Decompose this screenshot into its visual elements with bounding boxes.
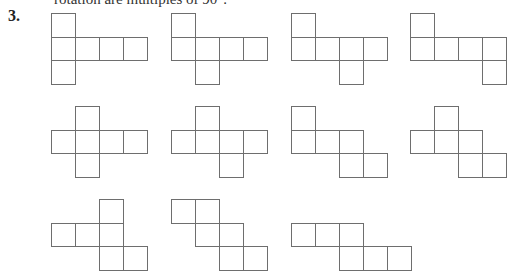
net-square bbox=[75, 106, 100, 131]
net-square bbox=[410, 13, 435, 38]
net-square bbox=[291, 223, 316, 248]
net-square bbox=[243, 246, 268, 271]
net-square bbox=[339, 130, 364, 155]
net-square bbox=[123, 246, 148, 271]
net-square bbox=[195, 199, 220, 224]
net-square bbox=[482, 37, 507, 62]
net-square bbox=[51, 223, 76, 248]
net-square bbox=[99, 246, 124, 271]
net-square bbox=[51, 130, 76, 155]
net-square bbox=[387, 246, 412, 271]
net-square bbox=[171, 37, 196, 62]
net-square bbox=[75, 130, 100, 155]
net-square bbox=[363, 246, 388, 271]
net-square bbox=[195, 106, 220, 131]
net-square bbox=[458, 37, 483, 62]
net-square bbox=[291, 130, 316, 155]
net-square bbox=[219, 246, 244, 271]
net-square bbox=[339, 37, 364, 62]
net-square bbox=[219, 223, 244, 248]
net-square bbox=[51, 13, 76, 38]
net-square bbox=[75, 153, 100, 178]
question-number: 3. bbox=[8, 7, 20, 25]
net-square bbox=[99, 37, 124, 62]
net-square bbox=[219, 37, 244, 62]
net-square bbox=[339, 153, 364, 178]
net-square bbox=[195, 223, 220, 248]
net-square bbox=[123, 130, 148, 155]
net-square bbox=[243, 130, 268, 155]
net-square bbox=[482, 153, 507, 178]
net-square bbox=[315, 37, 340, 62]
net-square bbox=[51, 60, 76, 85]
net-square bbox=[434, 106, 459, 131]
net-square bbox=[458, 130, 483, 155]
net-square bbox=[171, 13, 196, 38]
net-square bbox=[315, 130, 340, 155]
net-square bbox=[123, 37, 148, 62]
net-square bbox=[434, 37, 459, 62]
net-square bbox=[99, 130, 124, 155]
net-square bbox=[410, 37, 435, 62]
net-square bbox=[171, 199, 196, 224]
net-square bbox=[339, 246, 364, 271]
net-square bbox=[75, 223, 100, 248]
net-square bbox=[482, 60, 507, 85]
net-square bbox=[291, 13, 316, 38]
net-square bbox=[99, 223, 124, 248]
net-square bbox=[339, 60, 364, 85]
net-square bbox=[99, 199, 124, 224]
net-square bbox=[195, 37, 220, 62]
net-square bbox=[291, 106, 316, 131]
net-square bbox=[434, 130, 459, 155]
net-square bbox=[243, 37, 268, 62]
net-square bbox=[195, 130, 220, 155]
net-square bbox=[219, 130, 244, 155]
net-square bbox=[339, 223, 364, 248]
net-square bbox=[291, 37, 316, 62]
net-square bbox=[219, 153, 244, 178]
net-square bbox=[410, 130, 435, 155]
net-square bbox=[363, 37, 388, 62]
intro-text: rotation are multiples of 90°. bbox=[54, 0, 227, 8]
net-square bbox=[315, 223, 340, 248]
net-square bbox=[75, 37, 100, 62]
net-square bbox=[51, 37, 76, 62]
net-square bbox=[363, 153, 388, 178]
net-square bbox=[195, 60, 220, 85]
net-square bbox=[171, 130, 196, 155]
net-square bbox=[458, 153, 483, 178]
